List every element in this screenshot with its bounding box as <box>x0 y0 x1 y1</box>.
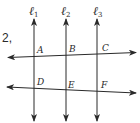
problem-number: 2, <box>2 31 12 45</box>
label-l3: ℓ3 <box>93 4 102 19</box>
point-label-e: E <box>67 80 75 90</box>
label-l2: ℓ2 <box>61 4 70 19</box>
point-label-c: C <box>102 43 109 53</box>
point-label-b: B <box>68 44 76 54</box>
point-label-f: F <box>100 80 108 90</box>
point-label-d: D <box>36 77 44 87</box>
label-l1: ℓ1 <box>29 4 38 19</box>
point-label-a: A <box>36 45 44 55</box>
parallel-lines-figure: 2, ℓ1 ℓ2 ℓ3 A B C D E F <box>0 0 140 123</box>
